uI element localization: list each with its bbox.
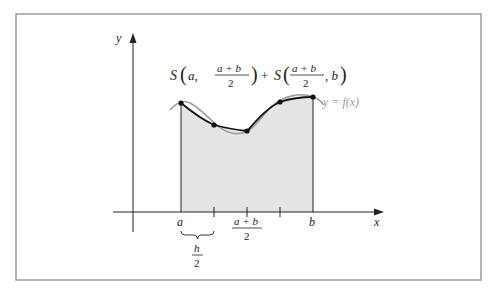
brace-label-numerator: h bbox=[194, 242, 200, 254]
simpson-rule-diagram: y x y = f(x) S ( a, a + b 2 ) + S ( a + … bbox=[0, 0, 493, 300]
curve-label: y = f(x) bbox=[322, 95, 359, 109]
formula-left-numerator: a + b bbox=[217, 62, 241, 74]
formula-s-right: S bbox=[274, 68, 281, 83]
node-a bbox=[178, 100, 183, 105]
formula-arg-a: a, bbox=[188, 68, 198, 83]
x-axis-label: x bbox=[373, 215, 380, 229]
formula-paren-open-left: ( bbox=[180, 63, 187, 86]
node-b bbox=[310, 94, 315, 99]
y-axis-label: y bbox=[115, 31, 122, 45]
node-three-quarter bbox=[277, 99, 282, 104]
brace-label-denominator: 2 bbox=[194, 257, 200, 269]
formula-paren-close-left: ) bbox=[251, 63, 258, 86]
tick-label-a: a bbox=[177, 215, 183, 229]
formula-arg-b: , b bbox=[325, 68, 339, 83]
formula-plus: + bbox=[261, 68, 268, 83]
formula-right-denominator: 2 bbox=[303, 77, 309, 89]
tick-label-mid-numerator: a + b bbox=[234, 215, 258, 227]
tick-label-mid-denominator: 2 bbox=[244, 230, 250, 242]
formula-left-denominator: 2 bbox=[228, 77, 234, 89]
formula-paren-open-right: ( bbox=[283, 63, 290, 86]
node-quarter bbox=[211, 122, 216, 127]
node-mid bbox=[244, 128, 249, 133]
formula-paren-close-right: ) bbox=[340, 63, 347, 86]
formula-s-left: S bbox=[170, 68, 177, 83]
formula-right-numerator: a + b bbox=[292, 62, 316, 74]
tick-label-b: b bbox=[309, 215, 315, 229]
